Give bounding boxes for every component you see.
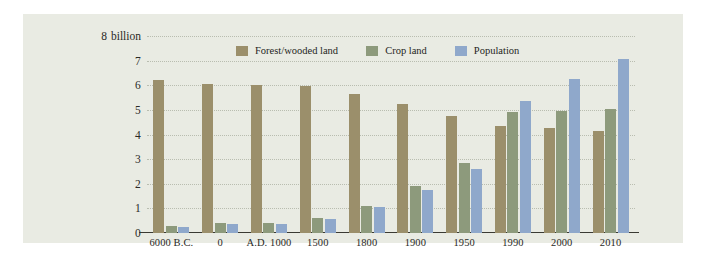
- y-axis-tick-label: 6: [135, 79, 141, 91]
- bar-groups: 6000 B.C.0A.D. 1000150018001900195019902…: [147, 36, 635, 233]
- bar-crop[interactable]: [263, 223, 274, 233]
- bar-group: 1950: [440, 36, 489, 233]
- x-axis-tick-label: A.D. 1000: [247, 237, 292, 248]
- bar-forest[interactable]: [349, 94, 360, 233]
- bar-crop[interactable]: [166, 226, 177, 233]
- x-axis-tick-label: 1950: [453, 237, 474, 248]
- bar-group: 1990: [489, 36, 538, 233]
- bar-crop[interactable]: [605, 109, 616, 233]
- bar-forest[interactable]: [300, 86, 311, 233]
- y-axis-tick-label: 8: [101, 30, 107, 42]
- bar-population[interactable]: [325, 219, 336, 233]
- bar-crop[interactable]: [312, 218, 323, 233]
- bar-crop[interactable]: [361, 206, 372, 233]
- bar-population[interactable]: [471, 169, 482, 233]
- y-axis-unit-word: billion: [111, 30, 141, 42]
- bar-forest[interactable]: [397, 104, 408, 233]
- bar-population[interactable]: [520, 101, 531, 233]
- y-axis-tick-label: 5: [135, 104, 141, 116]
- x-axis-tick-label: 2000: [551, 237, 572, 248]
- bar-forest[interactable]: [202, 84, 213, 233]
- bar-crop[interactable]: [507, 112, 518, 233]
- bar-group: 2010: [586, 36, 635, 233]
- x-axis-tick-label: 2010: [600, 237, 621, 248]
- bar-forest[interactable]: [251, 85, 262, 233]
- chart-panel: Forest/wooded land Crop land Population …: [23, 14, 683, 243]
- bar-population[interactable]: [178, 227, 189, 233]
- x-axis-tick-label: 6000 B.C.: [149, 237, 193, 248]
- y-axis-tick-label: 4: [135, 129, 141, 141]
- bar-crop[interactable]: [410, 186, 421, 233]
- bar-population[interactable]: [374, 207, 385, 233]
- bar-group: 0: [196, 36, 245, 233]
- bar-group: 6000 B.C.: [147, 36, 196, 233]
- bar-group: A.D. 1000: [245, 36, 294, 233]
- y-axis-unit-label: 8billion: [101, 30, 141, 42]
- x-axis-tick-label: 1900: [405, 237, 426, 248]
- bar-crop[interactable]: [215, 223, 226, 233]
- bar-group: 1500: [293, 36, 342, 233]
- bar-population[interactable]: [618, 59, 629, 233]
- y-axis-tick-label: 3: [135, 153, 141, 165]
- y-axis-tick-label: 2: [135, 178, 141, 190]
- bar-population[interactable]: [276, 224, 287, 233]
- x-axis-tick-label: 1990: [502, 237, 523, 248]
- y-axis-tick-label: 0: [135, 227, 141, 239]
- bar-group: 1900: [391, 36, 440, 233]
- bar-group: 2000: [537, 36, 586, 233]
- bar-forest[interactable]: [446, 116, 457, 233]
- bar-forest[interactable]: [544, 128, 555, 233]
- bar-population[interactable]: [422, 190, 433, 233]
- bar-crop[interactable]: [556, 111, 567, 233]
- bar-group: 1800: [342, 36, 391, 233]
- bar-forest[interactable]: [593, 131, 604, 233]
- bar-population[interactable]: [227, 224, 238, 233]
- x-axis-tick-label: 1500: [307, 237, 328, 248]
- plot-area: 012345678billion 6000 B.C.0A.D. 10001500…: [147, 36, 635, 233]
- y-axis-tick-label: 7: [135, 55, 141, 67]
- bar-forest[interactable]: [153, 80, 164, 233]
- bar-forest[interactable]: [495, 126, 506, 233]
- bar-crop[interactable]: [459, 163, 470, 233]
- bar-population[interactable]: [569, 79, 580, 233]
- y-axis-tick-label: 1: [135, 202, 141, 214]
- x-axis-tick-label: 1800: [356, 237, 377, 248]
- x-axis-tick-label: 0: [218, 237, 223, 248]
